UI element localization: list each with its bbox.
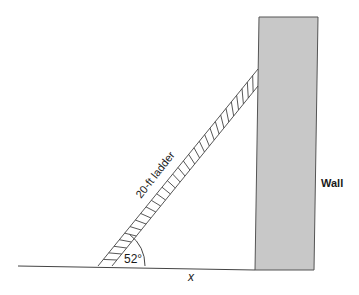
angle-label: 52° — [124, 252, 142, 266]
wall-rect — [255, 17, 318, 270]
ladder — [98, 69, 258, 266]
ladder-wall-diagram: 52° 20-ft ladder x Wall — [0, 0, 359, 295]
ground-line — [18, 266, 255, 270]
ladder-length-label: 20-ft ladder — [133, 149, 177, 201]
wall-label: Wall — [321, 177, 343, 189]
base-distance-label: x — [187, 270, 195, 284]
